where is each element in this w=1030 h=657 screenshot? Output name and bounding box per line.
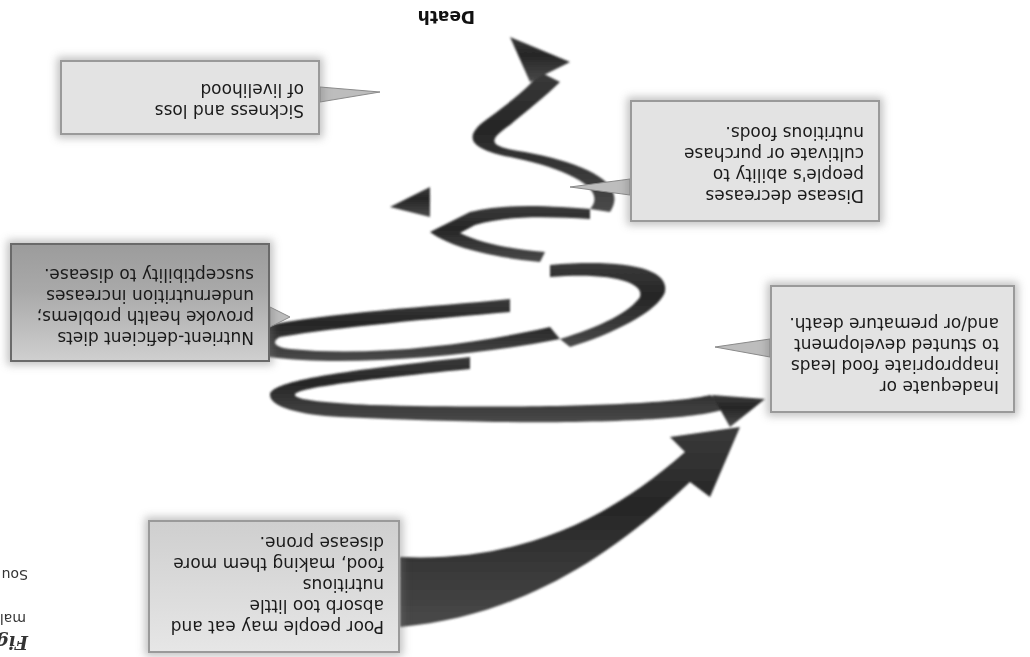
callout-poor-people: Poor people may eat and absorb too littl… (148, 520, 400, 653)
pointer-sickness (320, 87, 380, 102)
figure-caption-fragment: Fig (0, 632, 28, 653)
callout-sickness: Sickness and loss of livelihood (60, 60, 320, 135)
arrow-segment-4 (550, 263, 665, 347)
pointer-inadequate (715, 339, 770, 357)
callout-line: people's ability to (646, 164, 864, 185)
callout-line: provoke health problems; (26, 306, 254, 327)
callout-line: Nutrient-deficient diets (26, 327, 254, 348)
callout-disease-decreases: Disease decreases people's ability to cu… (630, 100, 880, 222)
callout-line: Inadequate or (786, 376, 999, 397)
callout-line: Sickness and loss (76, 100, 304, 121)
arrow-segment-1 (400, 427, 740, 627)
arrow-segment-3 (246, 299, 560, 361)
callout-inadequate-food: Inadequate or inappropriate food leads t… (770, 285, 1015, 413)
arrow-head-5 (390, 187, 430, 217)
callout-line: susceptibility to disease. (26, 264, 254, 285)
callout-line: absorb too little nutritious (164, 574, 384, 616)
arrow-head-2 (712, 395, 765, 427)
callout-line: Poor people may eat and (164, 616, 384, 637)
callout-line: of livelihood (76, 79, 304, 100)
callout-line: to stunted development (786, 334, 999, 355)
callout-line: cultivate or purchase (646, 143, 864, 164)
arrow-segment-2 (270, 357, 730, 422)
callout-nutrient-deficient: Nutrient-deficient diets provoke health … (10, 243, 270, 362)
caption-fragment-mal: mal (0, 611, 26, 627)
callout-line: inappropriate food leads (786, 355, 999, 376)
death-label: Death (418, 7, 475, 27)
source-fragment: Sou (2, 567, 28, 583)
arrow-head-death (510, 37, 570, 82)
arrow-segment-5 (430, 206, 590, 262)
callout-line: Disease decreases (646, 185, 864, 206)
arrow-segment-6 (473, 72, 615, 212)
callout-line: disease prone. (164, 532, 384, 553)
callout-line: and/or premature death. (786, 313, 999, 334)
callout-line: food, making them more (164, 553, 384, 574)
callout-line: nutritious foods. (646, 122, 864, 143)
diagram-stage: Poor people may eat and absorb too littl… (0, 0, 1030, 657)
callout-line: undernutrition increases (26, 285, 254, 306)
